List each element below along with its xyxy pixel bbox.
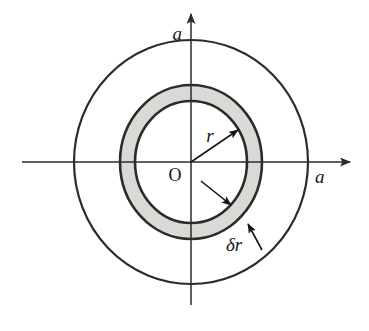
band-thickness-arrow <box>248 224 262 250</box>
origin-label: O <box>169 165 182 185</box>
figure-canvas: a a O r δr <box>0 0 369 331</box>
thickness-label-delta-r: δr <box>226 234 243 255</box>
x-axis-label-a: a <box>315 166 325 187</box>
annulus-diagram: a a O r δr <box>0 0 369 331</box>
y-axis-label-a: a <box>173 23 183 44</box>
radius-label-r: r <box>206 125 214 146</box>
